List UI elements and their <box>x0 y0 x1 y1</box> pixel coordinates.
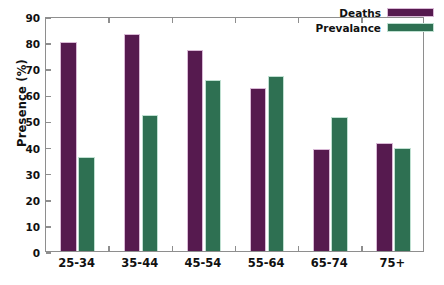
legend-item-deaths[interactable]: Deaths <box>316 6 434 19</box>
bar-deaths-65-74 <box>313 149 330 251</box>
y-tick-mark <box>46 226 51 228</box>
legend-label: Deaths <box>339 7 381 19</box>
x-tick-mark <box>361 246 363 251</box>
x-tick-mark <box>235 18 237 23</box>
bar-prevalance-45-54 <box>205 80 222 251</box>
x-tick-mark <box>298 246 300 251</box>
legend-label: Prevalance <box>316 22 381 34</box>
y-tick-label: 50 <box>25 115 40 129</box>
y-tick-label: 0 <box>33 246 40 260</box>
y-tick-mark <box>46 174 51 176</box>
x-axis-label-65-74: 65-74 <box>311 256 348 270</box>
y-tick-mark <box>46 69 51 71</box>
bar-prevalance-75+ <box>394 148 411 251</box>
y-tick-mark <box>46 252 51 254</box>
chart-legend: DeathsPrevalance <box>312 4 438 39</box>
x-tick-mark <box>108 18 110 23</box>
y-tick-label: 10 <box>25 220 40 234</box>
y-tick-label: 70 <box>25 63 40 77</box>
y-tick-label: 90 <box>25 11 40 25</box>
y-tick-label: 80 <box>25 37 40 51</box>
y-tick-mark <box>46 17 51 19</box>
x-tick-mark <box>108 246 110 251</box>
bar-deaths-55-64 <box>250 88 267 251</box>
bar-deaths-25-34 <box>60 42 77 251</box>
y-tick-mark <box>46 148 51 150</box>
plot-area: 0102030405060708090 <box>45 17 424 252</box>
legend-swatch-deaths <box>387 8 434 17</box>
y-tick-label: 40 <box>25 142 40 156</box>
bar-chart: Presence (%) 0102030405060708090 25-3435… <box>0 0 444 285</box>
legend-swatch-prevalance <box>387 23 434 32</box>
bar-prevalance-25-34 <box>78 157 95 251</box>
y-tick-label: 60 <box>25 89 40 103</box>
x-axis-label-25-34: 25-34 <box>58 256 95 270</box>
bar-deaths-35-44 <box>124 34 141 251</box>
bar-deaths-45-54 <box>187 50 204 251</box>
legend-item-prevalance[interactable]: Prevalance <box>316 21 434 34</box>
bar-prevalance-55-64 <box>268 76 285 251</box>
bar-deaths-75+ <box>376 143 393 251</box>
x-axis-label-35-44: 35-44 <box>121 256 158 270</box>
y-tick-mark <box>46 96 51 98</box>
x-tick-mark <box>172 18 174 23</box>
y-tick-mark <box>46 122 51 124</box>
x-tick-mark <box>172 246 174 251</box>
y-tick-label: 20 <box>25 194 40 208</box>
x-axis-label-75+: 75+ <box>380 256 406 270</box>
bar-prevalance-65-74 <box>331 117 348 251</box>
x-tick-mark <box>298 18 300 23</box>
x-tick-mark <box>235 246 237 251</box>
x-axis-label-45-54: 45-54 <box>185 256 222 270</box>
y-tick-mark <box>46 200 51 202</box>
y-tick-label: 30 <box>25 168 40 182</box>
x-axis-label-55-64: 55-64 <box>248 256 285 270</box>
bar-prevalance-35-44 <box>142 115 159 251</box>
y-tick-mark <box>46 43 51 45</box>
